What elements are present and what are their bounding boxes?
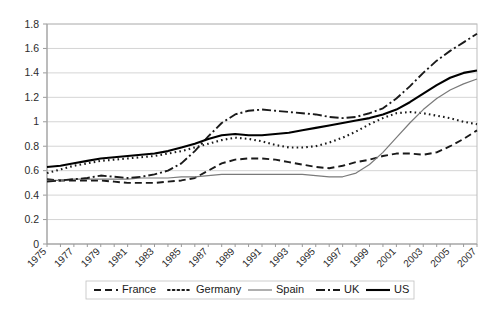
y-axis-tick-label: 0.4	[24, 189, 39, 201]
y-axis-tick-label: 0.6	[24, 164, 39, 176]
line-chart: 00.20.40.60.811.21.41.61.819751977197919…	[0, 0, 500, 310]
x-axis-tick-label: 1995	[294, 245, 318, 269]
legend-label: Germany	[196, 283, 242, 295]
legend-label: US	[394, 283, 409, 295]
legend-label: France	[122, 283, 156, 295]
x-axis-tick-label: 2007	[455, 245, 479, 269]
x-axis-tick-label: 1977	[52, 245, 76, 269]
y-axis-tick-label: 1.4	[24, 66, 39, 78]
plot-area-border	[47, 24, 477, 244]
y-axis-tick-label: 1.6	[24, 42, 39, 54]
x-axis-tick-label: 1981	[106, 245, 130, 269]
gridlines	[43, 24, 477, 244]
chart-container: 00.20.40.60.811.21.41.61.819751977197919…	[0, 0, 500, 310]
x-axis-tick-label: 1991	[240, 245, 264, 269]
legend-label: UK	[344, 283, 360, 295]
x-axis-tick-label: 1979	[79, 245, 103, 269]
x-axis-tick-label: 1985	[159, 245, 183, 269]
series-line-spain	[47, 79, 477, 180]
x-axis-tick-label: 2001	[374, 245, 398, 269]
y-axis-tick-label: 1	[33, 115, 39, 127]
series-line-uk	[47, 34, 477, 182]
x-axis-tick-label: 1987	[186, 245, 210, 269]
y-axis-tick-label: 0.8	[24, 140, 39, 152]
y-axis-tick-label: 1.2	[24, 91, 39, 103]
x-axis-tick-label: 2003	[401, 245, 425, 269]
series-group	[47, 34, 477, 183]
x-axis-tick-label: 1975	[25, 245, 49, 269]
legend-label: Spain	[276, 283, 304, 295]
x-axis-tick-label: 1999	[347, 245, 371, 269]
x-axis-tick-label: 1989	[213, 245, 237, 269]
x-axis-tick-label: 1997	[321, 245, 345, 269]
y-axis-tick-label: 0.2	[24, 213, 39, 225]
x-axis-tick-label: 1993	[267, 245, 291, 269]
series-line-germany	[47, 112, 477, 173]
x-axis-tick-label: 1983	[132, 245, 156, 269]
y-axis-tick-label: 1.8	[24, 18, 39, 30]
x-axis-tick-label: 2005	[428, 245, 452, 269]
